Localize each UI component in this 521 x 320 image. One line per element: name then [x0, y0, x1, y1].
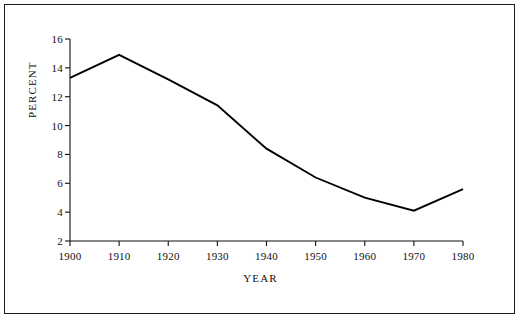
- y-tick-label: 8: [35, 148, 63, 160]
- axis-lines: [70, 39, 463, 241]
- y-tick-label: 4: [35, 206, 63, 218]
- x-tick-label: 1950: [304, 250, 327, 262]
- line-chart-plot: [5, 5, 514, 313]
- y-tick-label: 12: [35, 91, 63, 103]
- x-tick-label: 1930: [206, 250, 229, 262]
- chart-page: 246810121416 190019101920193019401950196…: [0, 0, 521, 320]
- x-tick-label: 1960: [353, 250, 376, 262]
- x-tick-label: 1900: [59, 250, 82, 262]
- y-tick-label: 6: [35, 177, 63, 189]
- x-tick-label: 1920: [157, 250, 180, 262]
- y-tick-label: 14: [35, 62, 63, 74]
- x-tick-label: 1970: [402, 250, 425, 262]
- x-axis-title: YEAR: [0, 272, 521, 284]
- x-axis-tick-marks: [70, 241, 463, 246]
- y-axis-tick-marks: [65, 39, 70, 241]
- x-tick-label: 1940: [255, 250, 278, 262]
- y-axis-title: PERCENT: [26, 61, 38, 118]
- y-tick-label: 10: [35, 120, 63, 132]
- y-tick-label: 16: [35, 33, 63, 45]
- x-tick-label: 1910: [108, 250, 131, 262]
- chart-frame-border: 246810121416 190019101920193019401950196…: [4, 4, 515, 314]
- x-tick-label: 1980: [452, 250, 475, 262]
- y-tick-label: 2: [35, 235, 63, 247]
- data-series-line: [70, 55, 463, 211]
